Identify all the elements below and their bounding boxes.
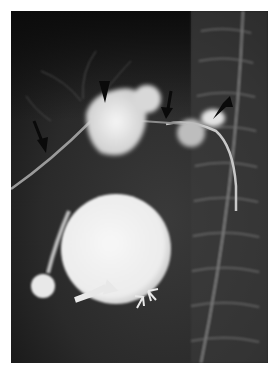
large-contrast-collection [61, 194, 171, 304]
small-contrast-collection [31, 274, 55, 298]
radiograph-frame [11, 11, 268, 363]
spine-region [191, 11, 268, 363]
radiograph-image [11, 11, 268, 363]
